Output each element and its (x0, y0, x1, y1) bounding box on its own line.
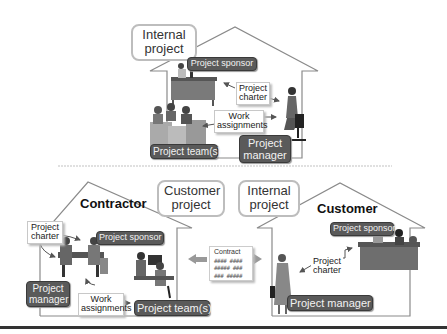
project-sponsor-label-right: Project sponsor (330, 222, 394, 236)
project-manager-label-right: Project manager (287, 295, 373, 311)
contract-line-3: ### ##### (214, 272, 248, 280)
contract-title: Contract (214, 248, 248, 257)
work-assignments-note-top: Work assignments (214, 110, 264, 133)
customer-title: Customer (317, 201, 378, 216)
contractor-team-figure (134, 252, 174, 298)
project-manager-label-left: Project manager (26, 281, 70, 307)
project-charter-note-top: Project charter (236, 82, 270, 105)
internal-project-callout-top: Internal project (131, 24, 197, 61)
contract-document: Contract #### #### ##### ### ### ##### (209, 246, 253, 281)
customer-project-callout: Customer project (157, 180, 225, 217)
team-meeting-figure (150, 103, 206, 150)
project-sponsor-label-left: Project sponsor (96, 231, 164, 245)
internal-project-callout-right: Internal project (238, 180, 300, 217)
manager-chair-figure (284, 87, 306, 140)
project-charter-note-left: Project charter (27, 221, 63, 244)
work-assignments-note-left: Work assignments (78, 293, 124, 316)
contractor-title: Contractor (80, 196, 146, 211)
project-charter-note-right: Project charter (311, 256, 343, 277)
project-team-label-left: Project team(s) (134, 300, 210, 316)
project-team-label-top: Project team(s) (150, 144, 218, 159)
bottom-rule (0, 326, 447, 329)
contract-line-1: #### #### (214, 257, 248, 265)
project-manager-label-top: Project manager (239, 135, 291, 163)
contract-line-2: ##### ### (214, 264, 248, 272)
project-sponsor-label-top: Project sponsor (187, 57, 257, 71)
